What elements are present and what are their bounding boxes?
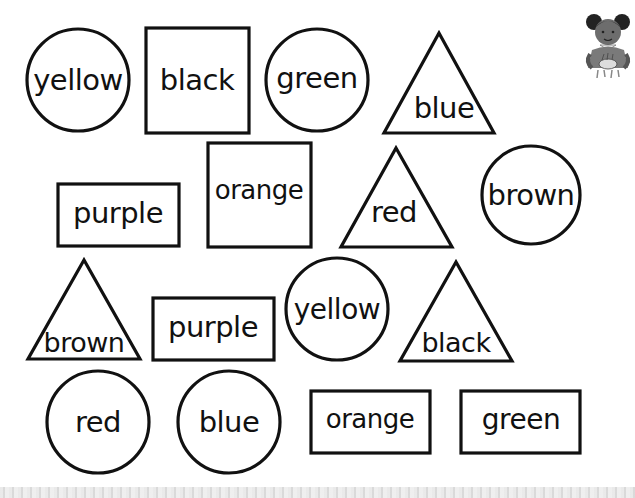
girl-illustration-icon	[582, 10, 634, 82]
shape-square-black-1: black	[146, 28, 249, 133]
word-blue: blue	[199, 405, 260, 439]
shape-triangle-black-2: black	[400, 262, 512, 361]
shape-rect-green-2: green	[461, 391, 580, 453]
word-red: red	[75, 405, 121, 439]
shape-circle-red-2: red	[47, 371, 149, 473]
word-brown: brown	[44, 327, 125, 358]
shape-rect-orange-2: orange	[311, 391, 430, 453]
shape-circle-yellow-2: yellow	[286, 258, 388, 360]
word-orange: orange	[326, 404, 415, 434]
worksheet-canvas: yellow black green blue purple orange re…	[0, 0, 635, 498]
word-purple: purple	[73, 196, 163, 230]
word-brown: brown	[487, 178, 574, 212]
shape-rect-purple-2: purple	[153, 298, 274, 360]
word-blue: blue	[414, 91, 475, 125]
word-green: green	[276, 61, 357, 95]
word-black: black	[160, 63, 235, 97]
shape-square-orange-1: orange	[208, 143, 311, 247]
shape-circle-green-1: green	[266, 29, 368, 131]
word-orange: orange	[215, 175, 304, 205]
word-green: green	[482, 403, 560, 436]
word-purple: purple	[168, 310, 258, 344]
word-yellow: yellow	[33, 63, 123, 97]
shape-triangle-brown-2: brown	[28, 260, 140, 359]
word-yellow: yellow	[294, 293, 380, 326]
shape-circle-yellow-1: yellow	[27, 29, 129, 131]
shape-circle-blue-2: blue	[178, 371, 280, 473]
shape-triangle-red-1: red	[341, 148, 452, 247]
shape-rect-purple-1: purple	[58, 184, 179, 246]
shape-circle-brown-1: brown	[482, 146, 580, 244]
scan-edge-noise	[0, 487, 635, 498]
word-red: red	[371, 195, 417, 229]
shape-triangle-blue-1: blue	[384, 33, 494, 133]
word-black: black	[421, 327, 491, 358]
